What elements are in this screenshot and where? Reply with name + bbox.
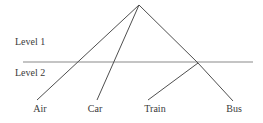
leaf-label-air: Air	[33, 103, 46, 114]
branch-root-to-air-line	[37, 5, 139, 100]
branch-junction-to-bus-line	[198, 63, 233, 101]
branch-root-to-junction-line	[139, 5, 198, 63]
leaf-label-bus: Bus	[226, 103, 242, 114]
tree-diagram: Level 1 Level 2 Air Car Train Bus	[0, 0, 263, 123]
level-2-label: Level 2	[15, 67, 45, 78]
branch-junction-to-train-line	[148, 63, 198, 100]
level-1-label: Level 1	[15, 36, 45, 47]
leaf-label-train: Train	[144, 103, 165, 114]
branch-root-to-car-line	[97, 5, 139, 100]
leaf-label-car: Car	[88, 103, 102, 114]
